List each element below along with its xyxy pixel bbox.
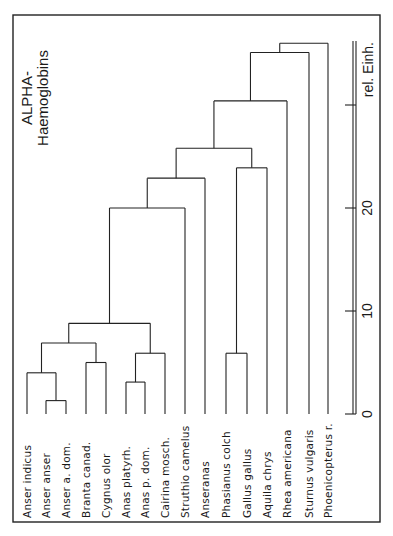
- leaf-labels: Anser indicus Anser anser Anser a. dom. …: [21, 423, 334, 518]
- leaf-label: Anser anser: [40, 453, 52, 518]
- dendrogram-figure: ALPHA- Haemoglobins Anser indicus Anser …: [0, 0, 393, 536]
- title-line-1: ALPHA-: [18, 71, 35, 125]
- axis-ticks: 01020: [345, 105, 375, 418]
- axis-tick-label: 0: [359, 410, 375, 418]
- leaf-label: Sturnus vulgaris: [303, 430, 315, 518]
- leaf-label: Cygnus olor: [100, 453, 112, 518]
- leaf-label: Struthio camelus: [179, 426, 191, 518]
- leaf-label: Rhea americana: [281, 429, 293, 518]
- leaf-label: Aquila chrys: [261, 451, 273, 518]
- leaf-label: Cairina mosch.: [159, 437, 171, 518]
- axis-tick-label: 20: [359, 200, 375, 216]
- title-line-2: Haemoglobins: [34, 50, 51, 146]
- leaf-label: Phoenicopterus r.: [322, 423, 334, 518]
- dendrogram-tree: [27, 43, 328, 414]
- leaf-label: Anser indicus: [21, 445, 33, 518]
- leaf-label: Anas p. dom.: [139, 447, 151, 518]
- leaf-label: Phasianus colch: [220, 431, 232, 518]
- leaf-label: Branta canad.: [80, 442, 92, 518]
- title: ALPHA- Haemoglobins: [18, 50, 51, 146]
- leaf-label: Anser a. dom.: [60, 442, 72, 518]
- leaf-label: Anseranas: [199, 461, 211, 518]
- leaf-label: Anas platyrh.: [120, 446, 132, 518]
- leaf-label: Gallus gallus: [241, 448, 253, 518]
- scale-axis: 01020 rel. Einh.: [345, 41, 376, 418]
- axis-unit-label: rel. Einh.: [360, 42, 376, 97]
- axis-tick-label: 10: [359, 303, 375, 319]
